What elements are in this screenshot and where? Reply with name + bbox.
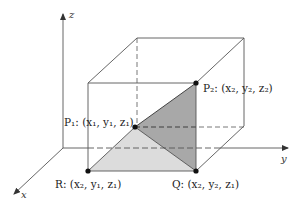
box-edge-top-left-depth xyxy=(88,38,137,83)
point-p2-label: P₂: (x₂, y₂, z₂) xyxy=(203,82,273,94)
z-axis-label: z xyxy=(68,9,75,20)
point-q xyxy=(193,168,198,173)
distance-3d-diagram: z x y P₁: (x₁, y₁, z₁) P₂: (x₂, y₂, z₂) … xyxy=(0,0,302,208)
x-axis-label: x xyxy=(21,189,27,200)
box-edge-top-right-depth xyxy=(196,38,244,83)
point-q-label: Q: (x₂, y₂, z₁) xyxy=(172,178,239,190)
diagram-canvas: z x y P₁: (x₁, y₁, z₁) P₂: (x₂, y₂, z₂) … xyxy=(0,0,302,208)
point-p2 xyxy=(193,80,198,85)
y-axis-label: y xyxy=(280,153,287,164)
point-r xyxy=(85,168,90,173)
point-r-label: R: (x₂, y₁, z₁) xyxy=(55,178,121,190)
point-p1-label: P₁: (x₁, y₁, z₁) xyxy=(64,116,134,128)
box-edge-bottom-right-depth xyxy=(196,126,244,171)
